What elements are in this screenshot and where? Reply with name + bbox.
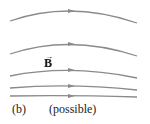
field-line-2 — [10, 44, 137, 56]
panel-label: (b) — [12, 103, 26, 115]
arrow-icon-3 — [68, 68, 75, 72]
field-line-4 — [10, 86, 137, 90]
field-line-1 — [10, 11, 137, 23]
magnetic-field-label: → B — [44, 57, 52, 69]
field-line-3 — [10, 70, 137, 78]
arrow-icon-4 — [68, 84, 75, 88]
caption: (possible) — [49, 103, 96, 115]
vector-arrow-icon: → — [45, 53, 53, 61]
arrow-icon-1 — [68, 9, 75, 13]
arrow-icon-2 — [68, 42, 75, 46]
arrow-icon-5 — [68, 94, 75, 98]
